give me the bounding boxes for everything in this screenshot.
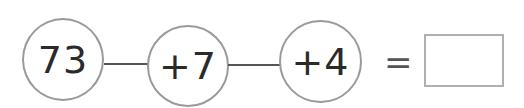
step-2-value: +4	[291, 40, 349, 84]
answer-box[interactable]	[424, 34, 504, 87]
step-circle-1: +7	[147, 25, 229, 107]
step-1-value: +7	[159, 44, 217, 88]
connector-line	[228, 64, 281, 66]
connector-line	[104, 63, 148, 65]
step-circle-2: +4	[279, 20, 362, 103]
equals-sign: =	[384, 45, 413, 79]
start-number: 73	[38, 38, 88, 82]
start-number-circle: 73	[22, 18, 104, 101]
